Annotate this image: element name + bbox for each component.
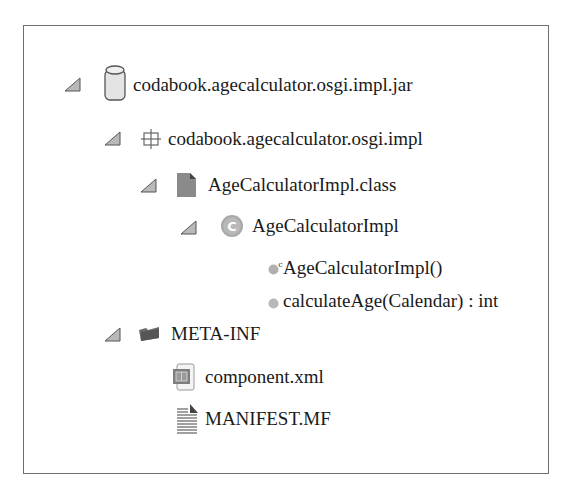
tree-node-class-file[interactable]: AgeCalculatorImpl.class: [140, 170, 396, 200]
class-icon: C: [220, 214, 244, 242]
tree-node-class[interactable]: C AgeCalculatorImpl: [180, 211, 399, 241]
expanded-twisty-icon[interactable]: [64, 77, 81, 96]
tree-node-component-xml[interactable]: component.xml: [172, 362, 324, 392]
folder-icon: [138, 326, 160, 346]
xml-file-icon: [172, 363, 196, 395]
tree-node-label: calculateAge(Calendar) : int: [283, 286, 498, 316]
expanded-twisty-icon[interactable]: [180, 220, 197, 239]
package-icon: [141, 128, 161, 154]
jar-icon: [103, 64, 127, 106]
tree-node-label: AgeCalculatorImpl(): [283, 253, 442, 283]
tree-node-method[interactable]: calculateAge(Calendar) : int: [266, 286, 498, 316]
tree-node-label: component.xml: [205, 362, 324, 392]
tree-node-package[interactable]: codabook.agecalculator.osgi.impl: [104, 124, 423, 154]
expanded-twisty-icon[interactable]: [104, 131, 121, 150]
tree-node-label: AgeCalculatorImpl: [252, 211, 399, 241]
expanded-twisty-icon[interactable]: [140, 178, 157, 197]
tree-node-jar[interactable]: codabook.agecalculator.osgi.impl.jar: [60, 70, 413, 100]
text-file-icon: [175, 403, 199, 439]
tree-node-label: AgeCalculatorImpl.class: [208, 170, 396, 200]
tree-node-manifest[interactable]: MANIFEST.MF: [174, 404, 331, 434]
tree-node-label: MANIFEST.MF: [205, 404, 331, 434]
svg-text:C: C: [227, 219, 237, 234]
constructor-icon: c: [268, 261, 284, 279]
method-icon: [268, 296, 280, 314]
svg-text:c: c: [278, 261, 283, 269]
tree-node-constructor[interactable]: c AgeCalculatorImpl(): [266, 253, 442, 283]
tree-node-meta-inf[interactable]: META-INF: [104, 319, 260, 349]
class-file-icon: [176, 172, 197, 202]
tree-node-label: codabook.agecalculator.osgi.impl.jar: [133, 70, 413, 100]
tree-node-label: META-INF: [171, 319, 260, 349]
expanded-twisty-icon[interactable]: [104, 327, 121, 346]
tree-node-label: codabook.agecalculator.osgi.impl: [168, 124, 423, 154]
